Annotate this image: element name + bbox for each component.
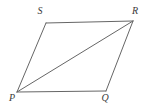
diagonal-p-to-r bbox=[17, 21, 133, 92]
vertex-label-q: Q bbox=[101, 92, 109, 103]
vertex-label-s: S bbox=[38, 5, 43, 16]
edge-p-to-s bbox=[17, 23, 46, 92]
vertex-label-p: P bbox=[8, 92, 15, 103]
parallelogram-diagram: S R Q P bbox=[0, 0, 146, 108]
geometry-figure-canvas: S R Q P bbox=[0, 0, 146, 108]
edge-q-to-p bbox=[17, 91, 106, 92]
edge-s-to-r bbox=[46, 21, 133, 23]
vertex-label-r: R bbox=[131, 5, 138, 16]
edge-r-to-q bbox=[106, 21, 133, 91]
